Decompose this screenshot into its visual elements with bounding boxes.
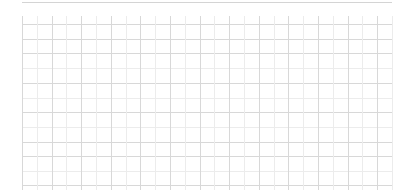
chart-grid (0, 0, 412, 196)
chart-canvas (0, 0, 412, 196)
